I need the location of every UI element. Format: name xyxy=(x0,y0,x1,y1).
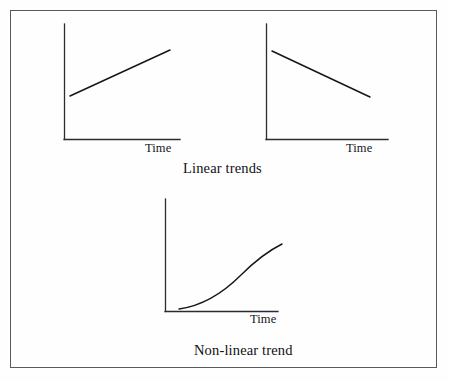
x-axis-label-non-linear: Time xyxy=(250,313,276,326)
chart-decreasing-linear xyxy=(262,20,394,146)
chart-increasing-linear xyxy=(60,20,186,146)
x-axis-label-increasing-linear: Time xyxy=(145,142,171,155)
trend-line-decreasing xyxy=(272,51,370,97)
axes-decreasing-linear xyxy=(266,24,388,140)
trend-curve-non-linear xyxy=(179,244,282,309)
figure-container: Time Time Linear trends Time Non-linear … xyxy=(0,0,449,381)
caption-linear-trends: Linear trends xyxy=(183,160,262,176)
axes-non-linear xyxy=(165,199,278,312)
axes-increasing-linear xyxy=(64,24,180,140)
chart-non-linear xyxy=(161,195,283,317)
caption-non-linear-trend: Non-linear trend xyxy=(194,342,293,358)
trend-line-increasing xyxy=(70,50,170,96)
x-axis-label-decreasing-linear: Time xyxy=(346,142,372,155)
